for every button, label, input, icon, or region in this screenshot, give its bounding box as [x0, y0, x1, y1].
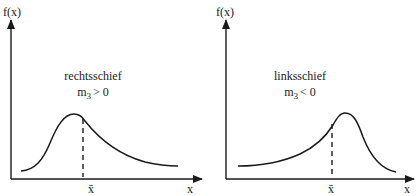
right-panel-left-skewed: f(x) x x̄ linksschief m3< 0: [216, 5, 414, 196]
left-x-axis-label: x: [187, 182, 193, 196]
right-skew-title: linksschief: [274, 69, 326, 83]
left-moment-condition: m3> 0: [77, 85, 109, 101]
left-density-curve: [21, 114, 178, 171]
right-x-axis-label: x: [404, 182, 410, 196]
right-moment-condition: m3< 0: [284, 85, 316, 101]
right-density-curve: [238, 113, 396, 172]
left-skew-title: rechtsschief: [64, 69, 121, 83]
left-mean-label: x̄: [88, 182, 94, 196]
skewness-diagram: f(x) x x̄ rechtsschief m3> 0 f(x) x x̄ l…: [0, 0, 418, 196]
left-panel-right-skewed: f(x) x x̄ rechtsschief m3> 0: [3, 5, 202, 196]
left-y-axis-label: f(x): [3, 5, 21, 19]
right-y-axis-label: f(x): [216, 5, 234, 19]
right-mean-label: x̄: [328, 182, 334, 196]
